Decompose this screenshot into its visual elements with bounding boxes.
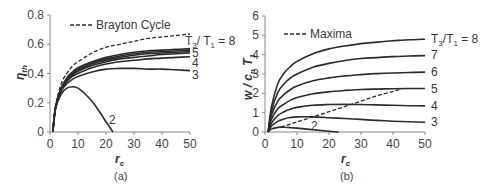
panel-b-chart: 0123456 01020304050 Maxima T3/T1 = 8 7 6… [241, 9, 479, 182]
y-tick-label: 0.8 [27, 8, 44, 22]
panel-b-label-8: T3/T1 = 8 [431, 32, 479, 48]
y-tick-label: 0 [252, 125, 259, 139]
x-tick-label: 0 [262, 137, 269, 151]
x-tick-label: 10 [290, 137, 304, 151]
panel-b-legend-label: Maxima [310, 27, 352, 41]
series-line [53, 53, 190, 132]
panel-a-caption: (a) [114, 170, 127, 182]
panel-b-x-label: rc [341, 152, 351, 168]
panel-b-label-6: 6 [431, 65, 438, 79]
panel-a-legend-label: Brayton Cycle [96, 18, 171, 32]
panel-b-y-label: w / cp T1 [241, 53, 257, 100]
series-line [268, 72, 425, 132]
panel-b-x-ticks: 01020304050 [262, 132, 432, 151]
x-tick-label: 0 [47, 137, 54, 151]
y-tick-label: 0.4 [27, 67, 44, 81]
x-tick-label: 40 [155, 137, 169, 151]
panel-b-label-7: 7 [431, 48, 438, 62]
panel-a-y-ticks: 00.20.40.60.8 [27, 8, 50, 139]
panel-b-label-3: 3 [431, 115, 438, 129]
panel-a-chart: 00.20.40.60.8 01020304050 Brayton Cycle … [13, 8, 236, 182]
y-tick-label: 0.6 [27, 37, 44, 51]
x-tick-label: 10 [71, 137, 85, 151]
x-tick-label: 40 [386, 137, 400, 151]
series-line [268, 127, 338, 132]
x-tick-label: 50 [183, 137, 197, 151]
x-tick-label: 20 [322, 137, 336, 151]
panel-a-label-3: 3 [192, 68, 199, 82]
panel-a-x-label: rc [115, 152, 125, 168]
panel-a-y-label: ηth [13, 65, 29, 80]
x-tick-label: 20 [99, 137, 113, 151]
y-tick-label: 6 [252, 9, 259, 23]
series-line [53, 87, 113, 132]
panel-b-label-5: 5 [431, 82, 438, 96]
y-tick-label: 0 [37, 125, 44, 139]
panel-b-label-2: 2 [311, 119, 318, 133]
panel-b-caption: (b) [340, 170, 353, 182]
panel-a-label-2: 2 [109, 113, 116, 127]
y-tick-label: 1 [252, 106, 259, 120]
panel-b-label-4: 4 [431, 99, 438, 113]
figure: 00.20.40.60.8 01020304050 Brayton Cycle … [0, 0, 485, 188]
series-line [268, 56, 425, 132]
x-tick-label: 50 [418, 137, 432, 151]
series-line [53, 52, 190, 132]
series-line [268, 117, 425, 132]
series-line [53, 68, 190, 132]
y-tick-label: 0.2 [27, 96, 44, 110]
x-tick-label: 30 [354, 137, 368, 151]
panel-b-curves [268, 39, 425, 132]
x-tick-label: 30 [127, 137, 141, 151]
y-tick-label: 5 [252, 28, 259, 42]
panel-a-curves [53, 34, 190, 132]
series-line [268, 89, 425, 133]
panel-a-x-ticks: 01020304050 [47, 132, 197, 151]
series-line [53, 34, 190, 132]
